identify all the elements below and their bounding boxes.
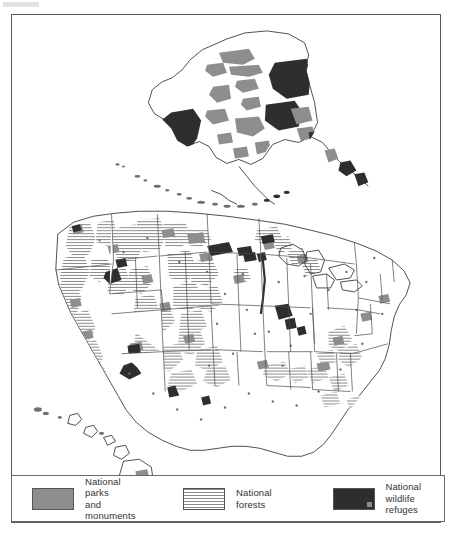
legend-label-parks: National parks and monuments — [85, 476, 145, 522]
aleutian-island-specks — [116, 163, 290, 208]
map-area — [12, 15, 440, 522]
figure-frame — [11, 14, 441, 523]
scan-artifact-bar — [3, 2, 39, 7]
legend-swatch-refuges-icon — [333, 488, 375, 510]
alaska-region — [116, 31, 369, 208]
us-fills — [54, 218, 390, 443]
legend-label-refuges: National wildlife refuges — [386, 481, 445, 516]
alaska-fills — [149, 49, 322, 165]
legend-item-parks: National parks and monuments — [32, 476, 145, 522]
legend-label-forests: National forests — [236, 487, 294, 510]
legend-item-refuges: National wildlife refuges — [333, 481, 445, 516]
us-federal-lands-map — [12, 15, 440, 522]
aleutian-islands — [239, 166, 275, 204]
legend-swatch-parks-icon — [32, 488, 74, 510]
legend-swatch-forests-icon — [183, 488, 225, 510]
map-legend: National parks and monuments National fo… — [11, 475, 445, 522]
contiguous-us-region — [54, 211, 410, 456]
legend-item-forests: National forests — [183, 487, 294, 510]
